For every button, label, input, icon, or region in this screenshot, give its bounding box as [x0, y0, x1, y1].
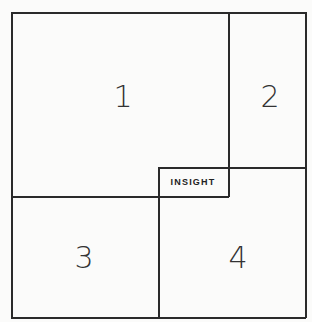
divider-3-4-vertical [158, 167, 160, 318]
quadrant-1-label: 1 [113, 82, 132, 112]
outer-top-border [11, 12, 306, 14]
divider-1-3-horizontal [11, 196, 229, 198]
outer-right-border [305, 12, 307, 318]
insight-label: INSIGHT [171, 177, 216, 187]
divider-1-2-vertical [228, 12, 230, 197]
quadrant-3-label: 3 [74, 243, 93, 273]
divider-2-4-horizontal [158, 167, 306, 169]
quadrant-4-label: 4 [228, 243, 247, 273]
quadrant-2-label: 2 [260, 82, 279, 112]
outer-left-border [11, 12, 13, 318]
